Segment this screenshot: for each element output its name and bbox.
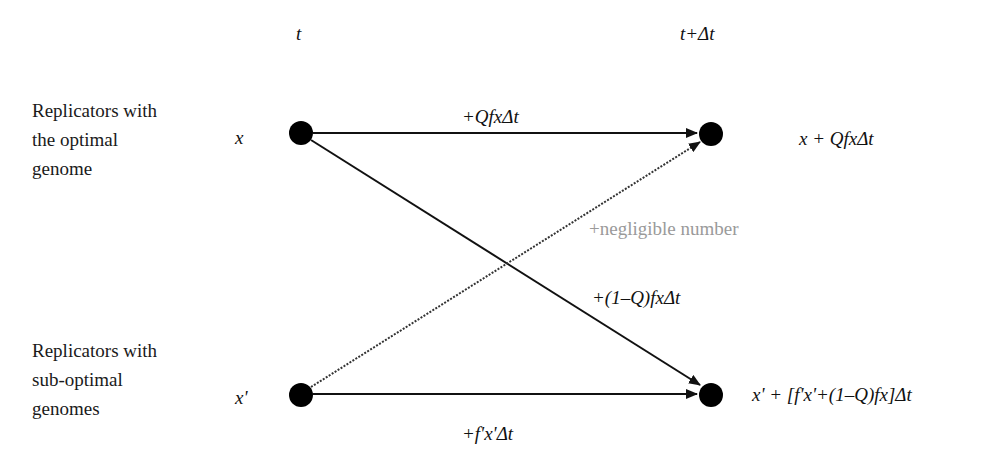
edge-suboptimal-to-optimal <box>311 142 700 387</box>
end-value-optimal: x + QfxΔt <box>799 129 874 148</box>
row-label-suboptimal: Replicators with sub-optimal genomes <box>32 336 157 423</box>
row-label-optimal: Replicators with the optimal genome <box>32 96 157 183</box>
edge-label-suboptimal-to-suboptimal: +f'x'Δt <box>462 424 513 443</box>
edge-optimal-to-suboptimal <box>311 140 700 385</box>
time-end-label: t+Δt <box>680 24 715 43</box>
edge-label-optimal-to-optimal: +QfxΔt <box>462 107 519 126</box>
start-value-suboptimal: x' <box>235 388 248 407</box>
end-value-suboptimal: x' + [f'x'+(1–Q)fx]Δt <box>752 385 912 404</box>
replicator-flow-diagram: t t+Δt Replicators with the optimal geno… <box>0 0 999 463</box>
node-suboptimal-t-plus-dt <box>699 383 723 407</box>
edge-label-suboptimal-to-optimal: +negligible number <box>589 219 739 238</box>
edge-label-optimal-to-suboptimal: +(1–Q)fxΔt <box>592 288 680 307</box>
start-value-optimal: x <box>235 128 243 147</box>
node-suboptimal-t <box>289 383 313 407</box>
node-optimal-t-plus-dt <box>699 122 723 146</box>
node-optimal-t <box>289 121 313 145</box>
time-start-label: t <box>296 24 301 43</box>
